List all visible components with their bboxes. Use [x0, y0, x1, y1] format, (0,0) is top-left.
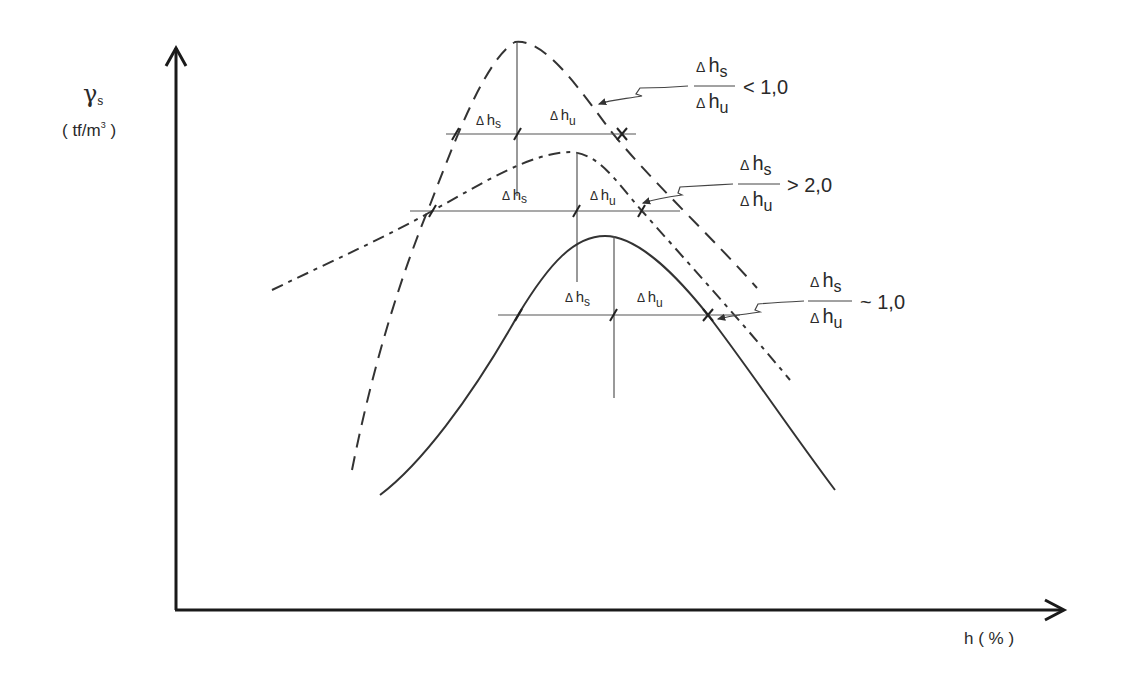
ratio-label-1: Δ hs Δ hu < 1,0	[694, 54, 788, 116]
svg-text:Δ hs: Δ hs	[740, 152, 772, 178]
svg-text:Δ hs: Δ hs	[810, 269, 842, 295]
svg-text:Δ hs: Δ hs	[696, 54, 728, 80]
svg-text:Δ hu: Δ hu	[696, 90, 729, 116]
ratio-label-2: Δ hs Δ hu > 2,0	[738, 152, 832, 214]
svg-text:Δ hu: Δ hu	[740, 188, 773, 214]
y-axis-symbol: γs	[83, 80, 104, 108]
dashed-delta-hu: Δ hu	[550, 106, 576, 128]
solid-delta-hs: Δ hs	[565, 288, 590, 309]
y-axis-unit: ( tf/m3 )	[62, 120, 116, 140]
dashdot-curve	[272, 152, 790, 380]
callout-arrow-3	[718, 301, 804, 319]
dashed-delta-hs: Δ hs	[476, 111, 501, 131]
svg-text:> 2,0: > 2,0	[787, 174, 832, 196]
dashdot-delta-hu: Δ hu	[590, 186, 616, 208]
svg-text:~ 1,0: ~ 1,0	[860, 291, 905, 313]
solid-delta-hu: Δ hu	[637, 288, 663, 310]
callout-arrow-1	[599, 86, 688, 104]
compaction-curves-diagram: γs ( tf/m3 ) h ( % ) Δ hs Δ hu Δ hs Δ hu…	[0, 0, 1123, 685]
svg-text:< 1,0: < 1,0	[743, 76, 788, 98]
dashdot-delta-hs: Δ hs	[502, 186, 527, 206]
solid-curve	[380, 236, 835, 495]
svg-text:Δ hu: Δ hu	[810, 305, 843, 331]
callout-arrow-2	[643, 184, 733, 203]
ratio-label-3: Δ hs Δ hu ~ 1,0	[808, 269, 905, 331]
x-axis-label: h ( % )	[964, 629, 1014, 648]
